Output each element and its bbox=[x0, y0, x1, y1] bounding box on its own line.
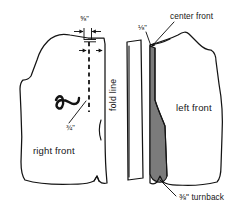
pattern-diagram-canvas bbox=[0, 0, 251, 221]
pattern-diagram: ⅝" ¾" ⅛" fold line center front ⅜" turnb… bbox=[0, 0, 251, 221]
turnback-label: ⅜" turnback bbox=[179, 193, 224, 201]
dimension-arrow-left bbox=[79, 29, 83, 33]
right-front-label: right front bbox=[33, 146, 75, 156]
left-front-label: left front bbox=[176, 103, 212, 113]
dimension-label-five-eighths: ⅝" bbox=[80, 15, 89, 22]
dimension-arrow-right bbox=[92, 29, 96, 33]
fold-line-label: fold line bbox=[109, 79, 118, 111]
center-front-label: center front bbox=[170, 12, 213, 20]
dimension-label-three-quarters: ¾" bbox=[66, 124, 75, 131]
dimension-label-one-eighth: ⅛" bbox=[138, 24, 147, 31]
one-eighth-leader bbox=[146, 32, 151, 46]
right-front-piece-outline bbox=[20, 34, 107, 184]
